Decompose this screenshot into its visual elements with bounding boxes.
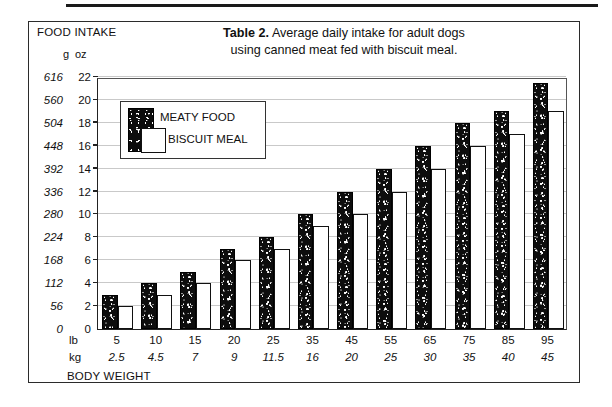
bar-biscuit-meal xyxy=(157,295,173,329)
x-unit-lb: lb xyxy=(69,334,78,346)
x-tick-label-lb: 35 xyxy=(292,334,332,346)
bar-group xyxy=(337,77,368,329)
bar-meaty-food xyxy=(220,249,236,329)
x-tick-label-kg: 9 xyxy=(214,351,254,363)
legend: MEATY FOOD BISCUIT MEAL xyxy=(120,101,266,159)
y-tick-ounces: 0 xyxy=(85,324,91,335)
bar-meaty-food xyxy=(141,283,157,329)
y-axis-tick xyxy=(93,99,98,100)
bar-meaty-food xyxy=(102,295,118,329)
x-tick-label-lb: 45 xyxy=(332,334,372,346)
y-tick-ounces: 12 xyxy=(78,187,91,198)
y-axis-tick xyxy=(93,121,98,122)
x-tick-label-kg: 4.5 xyxy=(136,351,176,363)
y-tick-ounces: 16 xyxy=(78,141,91,152)
y-axis-tick xyxy=(93,144,98,145)
y-tick-grams: 56 xyxy=(50,301,63,312)
x-tick-label-kg: 2.5 xyxy=(97,351,137,363)
bar-group xyxy=(376,77,407,329)
y-axis-units: goz xyxy=(43,48,97,60)
y-axis-tick xyxy=(93,76,98,77)
bar-biscuit-meal xyxy=(235,260,251,329)
x-tick-label-kg: 25 xyxy=(371,351,411,363)
chart-title-label: Table 2. xyxy=(223,26,269,40)
y-tick-ounces: 6 xyxy=(85,255,91,266)
bar-meaty-food xyxy=(298,214,314,329)
bar-meaty-food xyxy=(533,83,549,329)
bar-meaty-food xyxy=(259,237,275,329)
page-top-rule xyxy=(66,4,598,7)
y-tick-ounces: 22 xyxy=(78,72,91,83)
bar-biscuit-meal xyxy=(313,226,329,329)
y-tick-grams: 280 xyxy=(44,209,63,220)
y-tick-grams: 336 xyxy=(44,187,63,198)
x-tick-label-lb: 75 xyxy=(449,334,489,346)
bar-meaty-food xyxy=(337,192,353,329)
x-tick-label-lb: 55 xyxy=(371,334,411,346)
legend-label-meaty-food: MEATY FOOD xyxy=(160,111,235,123)
plot-area: MEATY FOOD BISCUIT MEAL xyxy=(97,78,567,330)
bar-biscuit-meal xyxy=(509,134,525,329)
y-axis-tick xyxy=(93,305,98,306)
y-axis-title: FOOD INTAKE xyxy=(37,26,116,38)
bar-meaty-food xyxy=(494,111,510,329)
x-tick-label-kg: 35 xyxy=(449,351,489,363)
y-axis-tick xyxy=(93,190,98,191)
bar-biscuit-meal xyxy=(118,306,134,329)
x-tick-label-kg: 20 xyxy=(332,351,372,363)
y-tick-ounces: 8 xyxy=(85,232,91,243)
x-tick-label-kg: 30 xyxy=(410,351,450,363)
y-tick-ounces: 10 xyxy=(78,209,91,220)
bar-biscuit-meal xyxy=(196,283,212,329)
bar-meaty-food xyxy=(180,272,196,329)
x-tick-label-lb: 85 xyxy=(488,334,528,346)
y-axis-tick xyxy=(93,167,98,168)
legend-swatch-biscuit-meal-icon xyxy=(141,128,166,153)
y-tick-ounces: 18 xyxy=(78,118,91,129)
y-axis-tick xyxy=(93,236,98,237)
x-tick-label-lb: 65 xyxy=(410,334,450,346)
bar-biscuit-meal xyxy=(392,192,408,329)
x-axis-title: BODY WEIGHT xyxy=(67,370,151,382)
x-tick-label-kg: 45 xyxy=(527,351,567,363)
y-axis-tick xyxy=(93,282,98,283)
x-tick-label-lb: 95 xyxy=(527,334,567,346)
chart-title: Table 2. Average daily intake for adult … xyxy=(179,25,509,59)
x-tick-label-kg: 40 xyxy=(488,351,528,363)
x-tick-label-kg: 16 xyxy=(292,351,332,363)
bar-group xyxy=(455,77,486,329)
bar-meaty-food xyxy=(455,123,471,329)
x-tick-label-lb: 20 xyxy=(214,334,254,346)
bar-biscuit-meal xyxy=(470,146,486,329)
bar-biscuit-meal xyxy=(274,249,290,329)
y-tick-ounces: 20 xyxy=(78,95,91,106)
legend-label-biscuit-meal: BISCUIT MEAL xyxy=(168,133,248,145)
x-tick-label-lb: 15 xyxy=(175,334,215,346)
bar-biscuit-meal xyxy=(431,169,447,329)
y-tick-ounces: 14 xyxy=(78,164,91,175)
y-tick-grams: 448 xyxy=(44,141,63,152)
x-tick-label-lb: 25 xyxy=(253,334,293,346)
x-tick-label-lb: 10 xyxy=(136,334,176,346)
figure-container: FOOD INTAKE goz Table 2. Average daily i… xyxy=(28,21,580,383)
y-tick-grams: 616 xyxy=(44,72,63,83)
y-unit-ounces: oz xyxy=(69,48,97,60)
y-axis-tick xyxy=(93,213,98,214)
bar-biscuit-meal xyxy=(353,214,369,329)
y-tick-grams: 112 xyxy=(45,278,63,289)
bar-meaty-food xyxy=(415,146,431,329)
y-axis-tick xyxy=(93,259,98,260)
bar-group xyxy=(415,77,446,329)
y-tick-ounces: 2 xyxy=(85,301,91,312)
chart-title-line1: Average daily intake for adult dogs xyxy=(269,26,465,40)
bar-group xyxy=(494,77,525,329)
bar-meaty-food xyxy=(376,169,392,329)
y-unit-grams: g xyxy=(43,48,69,60)
y-tick-grams: 560 xyxy=(44,95,63,106)
y-tick-grams: 504 xyxy=(44,118,63,129)
y-tick-grams: 224 xyxy=(44,232,63,243)
bar-group xyxy=(533,77,564,329)
bar-biscuit-meal xyxy=(548,111,564,329)
x-unit-kg: kg xyxy=(69,351,81,363)
x-tick-label-lb: 5 xyxy=(97,334,137,346)
